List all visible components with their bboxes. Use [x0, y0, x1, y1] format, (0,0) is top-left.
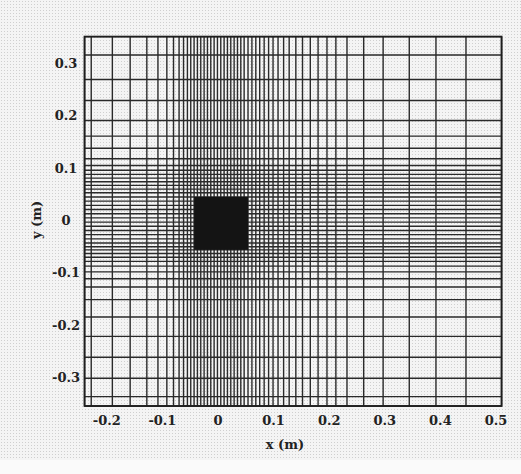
x-tick-label: -0.1	[148, 413, 176, 428]
x-tick-label: 0.2	[318, 413, 341, 428]
mesh-plot	[0, 0, 521, 474]
bottom-margin	[0, 460, 521, 474]
y-axis-title: y (m)	[29, 201, 44, 239]
y-tick-label: 0	[61, 213, 70, 228]
mesh-grid-lines	[85, 37, 502, 406]
x-tick-label: 0.4	[429, 413, 452, 428]
y-tick-label: 0.1	[55, 160, 78, 175]
obstacle-block	[194, 197, 248, 250]
y-tick-label: -0.1	[52, 265, 80, 280]
y-tick-label: 0.3	[55, 55, 78, 70]
mesh-figure: -0.2-0.100.10.20.30.40.5 0.30.20.10-0.1-…	[0, 0, 521, 474]
x-axis-title: x (m)	[266, 437, 304, 452]
y-tick-label: -0.2	[52, 317, 80, 332]
x-tick-label: 0.3	[373, 413, 396, 428]
y-tick-label: -0.3	[52, 370, 80, 385]
y-tick-label: 0.2	[55, 108, 78, 123]
x-tick-label: 0.5	[485, 413, 508, 428]
x-tick-label: -0.2	[93, 413, 121, 428]
x-tick-label: 0.1	[262, 413, 285, 428]
x-tick-label: 0	[213, 413, 222, 428]
